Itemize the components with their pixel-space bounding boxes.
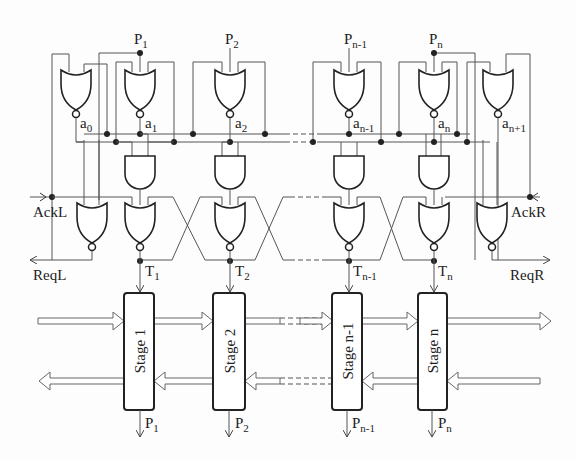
trigger-tn-1: Tn-1 — [353, 263, 377, 282]
output-pn-1: Pn-1 — [352, 415, 375, 434]
pipeline-circuit-diagram: Stage 1 Stage 2 Stage n-1 Stage n P1 P2 … — [0, 0, 576, 459]
nor-gate-a2 — [193, 48, 265, 142]
stage-2-label: Stage 2 — [222, 329, 238, 374]
output-pn: Pn — [438, 415, 452, 434]
trigger-t2: T2 — [235, 263, 250, 282]
trigger-tn: Tn — [438, 263, 453, 282]
stage-outputs — [140, 410, 432, 437]
output-p2: P2 — [235, 415, 249, 434]
backward-data-arrows — [39, 372, 540, 390]
top-input-p1: P1 — [134, 31, 148, 50]
reqr-label: ReqR — [510, 267, 544, 283]
lower-nor-gates — [30, 140, 550, 260]
top-input-p2: P2 — [225, 31, 239, 50]
top-input-pn-1: Pn-1 — [344, 31, 367, 50]
reql-label: ReqL — [33, 267, 66, 283]
forward-data-arrows — [38, 312, 551, 330]
stage-n-label: Stage n — [425, 328, 441, 373]
ack-node-an: an — [438, 115, 451, 134]
ackr-label: AckR — [511, 204, 546, 220]
trigger-lines — [137, 251, 437, 292]
ackl-label: AckL — [33, 204, 67, 220]
ack-node-a0: a0 — [80, 115, 93, 134]
ack-node-a2: a2 — [235, 115, 247, 134]
stage-1-label: Stage 1 — [132, 329, 148, 374]
ack-node-an-1: an-1 — [353, 115, 374, 134]
trigger-t1: T1 — [145, 263, 160, 282]
bus-junctions — [104, 50, 470, 145]
top-input-pn: Pn — [429, 31, 443, 50]
output-p1: P1 — [145, 415, 159, 434]
cross-wires — [140, 197, 442, 260]
stage-n-1-label: Stage n-1 — [340, 322, 356, 379]
ack-node-an+1: an+1 — [502, 115, 526, 134]
ack-node-a1: a1 — [145, 115, 157, 134]
